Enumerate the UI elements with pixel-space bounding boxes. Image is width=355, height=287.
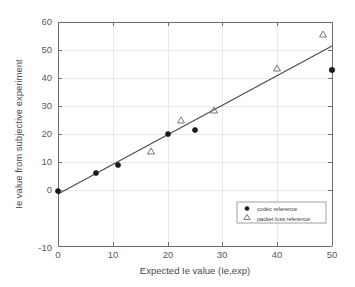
legend-label-codec-reference: codec reference bbox=[257, 206, 297, 212]
ytick-label-30: 30 bbox=[41, 100, 52, 111]
data-point-codec-0 bbox=[55, 188, 60, 193]
data-point-codec-5 bbox=[329, 67, 335, 73]
data-point-codec-2 bbox=[115, 162, 120, 167]
ytick-label-50: 50 bbox=[41, 44, 52, 55]
data-point-packetloss-1 bbox=[178, 117, 185, 123]
xtick-label-10: 10 bbox=[108, 249, 119, 260]
ytick-label-60: 60 bbox=[41, 16, 52, 27]
ytick-label-40: 40 bbox=[41, 72, 52, 83]
x-axis-title: Expected Ie value (Ie,exp) bbox=[140, 265, 250, 276]
legend-label-packet-loss-reference: packet loss reference bbox=[257, 216, 310, 222]
data-point-packetloss-0 bbox=[148, 148, 155, 154]
scatter-plot-figure: 60 50 40 30 20 10 0 -10 0 10 20 30 40 50… bbox=[0, 0, 355, 287]
x-tick-labels: 0 10 20 30 40 50 bbox=[55, 249, 337, 260]
ytick-label-20: 20 bbox=[41, 128, 52, 139]
series-codec-reference bbox=[55, 67, 334, 193]
legend: codec reference packet loss reference bbox=[237, 202, 326, 223]
ytick-label-minus10: -10 bbox=[38, 242, 52, 253]
data-point-codec-1 bbox=[93, 170, 98, 175]
ytick-label-10: 10 bbox=[41, 156, 52, 167]
y-tick-labels: 60 50 40 30 20 10 0 -10 bbox=[38, 16, 52, 253]
legend-marker-filled-circle-icon bbox=[245, 206, 249, 210]
xtick-label-40: 40 bbox=[272, 249, 283, 260]
xtick-label-30: 30 bbox=[217, 249, 228, 260]
xtick-label-20: 20 bbox=[163, 249, 174, 260]
xtick-label-50: 50 bbox=[327, 249, 338, 260]
series-packet-loss-reference bbox=[148, 31, 327, 154]
reference-fit-line bbox=[58, 46, 332, 194]
plot-canvas: 60 50 40 30 20 10 0 -10 0 10 20 30 40 50… bbox=[0, 0, 355, 287]
data-point-codec-4 bbox=[192, 127, 197, 132]
ytick-label-0: 0 bbox=[47, 184, 52, 195]
y-axis-title: Ie value from subjective experiment bbox=[13, 59, 24, 209]
data-point-codec-3 bbox=[165, 131, 170, 136]
xtick-label-0: 0 bbox=[55, 249, 60, 260]
data-point-packetloss-4 bbox=[320, 31, 327, 37]
